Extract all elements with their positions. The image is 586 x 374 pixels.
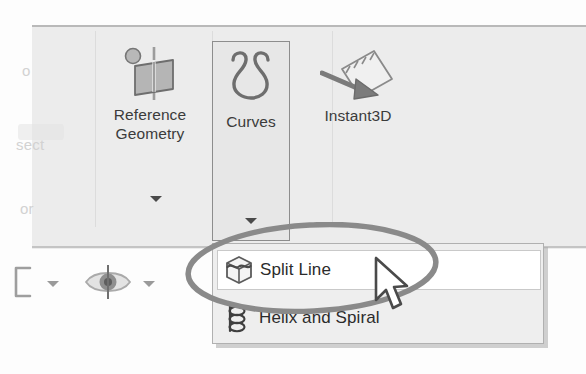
bracket-icon <box>10 262 42 302</box>
reference-plane-icon <box>117 41 183 105</box>
hide-show-button[interactable] <box>82 262 134 302</box>
reference-geometry-dropdown-caret[interactable] <box>150 196 162 202</box>
ruler-arrow-icon <box>320 48 396 106</box>
solidworks-ribbon-screenshot: o sect or Reference Geometry <box>0 0 586 374</box>
ribbon-button-label: Instant3D <box>324 106 391 125</box>
ghost-label-2: or <box>20 200 34 217</box>
ribbon-button-instant3d[interactable]: Instant3D <box>300 48 416 125</box>
ribbon-group-separator <box>95 31 96 227</box>
ghost-label-0: o <box>22 62 31 79</box>
section-view-button[interactable] <box>10 262 42 302</box>
curves-flyout-menu: Split Line Helix and Spiral <box>212 243 544 344</box>
ghost-label-1: sect <box>16 136 44 153</box>
hide-show-dropdown-caret[interactable] <box>143 281 155 287</box>
menu-item-label: Split Line <box>260 260 331 280</box>
curve-squiggle-icon <box>221 42 281 112</box>
ribbon-button-label: Reference Geometry <box>114 105 186 143</box>
ribbon-button-curves[interactable]: Curves <box>212 41 290 241</box>
ribbon-button-reference-geometry[interactable]: Reference Geometry <box>98 41 202 143</box>
eye-icon <box>82 262 134 302</box>
curves-dropdown-caret[interactable] <box>245 218 257 224</box>
menu-item-split-line[interactable]: Split Line <box>217 250 541 290</box>
menu-item-label: Helix and Spiral <box>259 308 380 328</box>
split-cube-icon <box>218 255 260 285</box>
section-view-dropdown-caret[interactable] <box>47 281 59 287</box>
ribbon-button-label: Curves <box>226 112 276 131</box>
helix-coil-icon <box>217 302 259 334</box>
menu-item-helix-and-spiral[interactable]: Helix and Spiral <box>217 298 541 338</box>
